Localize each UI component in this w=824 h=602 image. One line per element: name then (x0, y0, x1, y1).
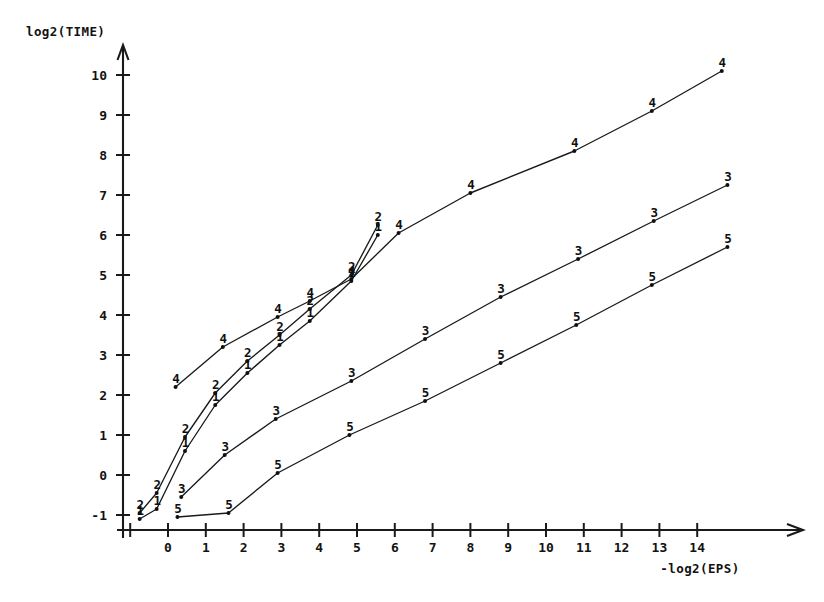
data-point: 3 (422, 323, 430, 341)
data-point-label-2: 2 (182, 421, 190, 436)
x-tick-label: 5 (353, 540, 361, 555)
y-tick-label: 9 (99, 108, 107, 123)
data-point: 4 (571, 135, 579, 153)
data-point-label-3: 3 (178, 481, 186, 496)
data-point-label-4: 4 (649, 95, 657, 110)
data-point-label-5: 5 (573, 309, 581, 324)
data-point: 3 (497, 281, 505, 299)
x-tick-label: 0 (164, 540, 172, 555)
data-point-label-2: 2 (212, 377, 220, 392)
data-point: 5 (649, 269, 657, 287)
axis-ticks (116, 75, 697, 537)
data-point-label-5: 5 (724, 231, 732, 246)
data-point-label-3: 3 (575, 243, 583, 258)
y-tick-label: 5 (99, 268, 107, 283)
y-tick-label: 3 (99, 348, 107, 363)
series-line-5 (177, 247, 727, 517)
data-point: 3 (650, 205, 658, 223)
data-point-label-3: 3 (221, 439, 229, 454)
data-point: 4 (649, 95, 657, 113)
data-point-label-4: 4 (172, 371, 180, 386)
data-point-label-5: 5 (649, 269, 657, 284)
data-point: 5 (724, 231, 732, 249)
data-point-label-4: 4 (571, 135, 579, 150)
y-tick-label: -1 (91, 508, 107, 523)
data-point-label-4: 4 (220, 331, 228, 346)
y-tick-label: 7 (99, 188, 107, 203)
data-point-label-5: 5 (225, 497, 233, 512)
data-point-label-2: 2 (276, 319, 284, 334)
series-line-4 (176, 71, 722, 387)
data-point-label-4: 4 (467, 177, 475, 192)
data-point-label-1: 1 (153, 493, 161, 508)
data-point-label-2: 2 (136, 497, 144, 512)
x-tick-label: 9 (504, 540, 512, 555)
data-point-label-5: 5 (422, 385, 430, 400)
data-point-label-2: 2 (153, 477, 161, 492)
x-tick-label: 11 (576, 540, 592, 555)
y-tick-label: 4 (99, 308, 107, 323)
data-point: 4 (172, 371, 180, 389)
data-point: 4 (719, 55, 727, 73)
series-line-3 (181, 185, 727, 497)
data-point: 3 (724, 169, 732, 187)
data-point-label-4: 4 (348, 263, 356, 278)
data-point: 3 (272, 403, 280, 421)
data-point: 5 (274, 457, 282, 475)
line-chart: -101234567891001234567891011121314 11111… (0, 0, 824, 602)
data-point-label-4: 4 (719, 55, 727, 70)
x-tick-label: 13 (652, 540, 668, 555)
data-point: 3 (575, 243, 583, 261)
data-point-markers: 1111111112222222223333333334444444444555… (136, 55, 731, 521)
data-point-label-3: 3 (724, 169, 732, 184)
data-point: 3 (178, 481, 186, 499)
x-tick-label: 12 (614, 540, 630, 555)
data-point: 3 (348, 365, 356, 383)
data-point: 4 (274, 301, 282, 319)
y-tick-label: 10 (91, 68, 107, 83)
x-tick-label: 4 (315, 540, 323, 555)
data-point-label-3: 3 (272, 403, 280, 418)
y-axis-title: log2(TIME) (26, 24, 105, 39)
data-point: 3 (221, 439, 229, 457)
y-tick-label: 8 (99, 148, 107, 163)
x-tick-label: 7 (429, 540, 437, 555)
data-point-label-5: 5 (497, 347, 505, 362)
data-point-label-4: 4 (274, 301, 282, 316)
data-point: 5 (225, 497, 233, 515)
data-point-label-5: 5 (346, 419, 354, 434)
data-point-label-3: 3 (422, 323, 430, 338)
data-point-label-3: 3 (650, 205, 658, 220)
data-point-label-5: 5 (274, 457, 282, 472)
data-point-label-4: 4 (395, 217, 403, 232)
y-tick-label: 6 (99, 228, 107, 243)
chart-container: -101234567891001234567891011121314 11111… (0, 0, 824, 602)
data-point: 5 (497, 347, 505, 365)
data-point: 5 (422, 385, 430, 403)
data-point-label-5: 5 (174, 501, 182, 516)
data-point: 5 (573, 309, 581, 327)
x-tick-label: 6 (391, 540, 399, 555)
y-tick-label: 2 (99, 388, 107, 403)
data-point-label-2: 2 (375, 209, 383, 224)
data-point: 4 (395, 217, 403, 235)
x-tick-label: 1 (202, 540, 210, 555)
data-point-label-4: 4 (306, 285, 314, 300)
x-tick-label: 8 (466, 540, 474, 555)
data-point: 4 (220, 331, 228, 349)
y-tick-label: 0 (99, 468, 107, 483)
data-point-label-3: 3 (348, 365, 356, 380)
x-tick-label: 2 (240, 540, 248, 555)
x-tick-label: 10 (538, 540, 554, 555)
data-point-label-2: 2 (244, 345, 252, 360)
data-point: 1 (153, 493, 161, 511)
x-axis-title: -log2(EPS) (660, 561, 739, 576)
axes (117, 45, 803, 538)
x-tick-label: 3 (277, 540, 285, 555)
x-tick-label: 14 (689, 540, 705, 555)
data-point-label-3: 3 (497, 281, 505, 296)
y-tick-label: 1 (99, 428, 107, 443)
